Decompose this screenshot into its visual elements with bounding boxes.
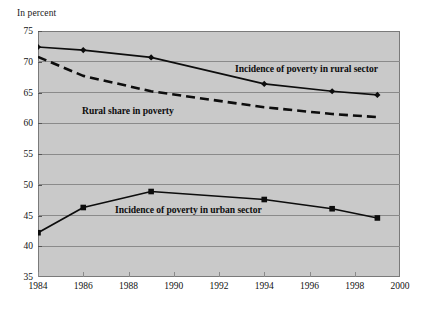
y-tick-label: 55 bbox=[24, 149, 34, 159]
data-point-marker-square bbox=[148, 189, 154, 195]
data-point-marker-diamond bbox=[148, 54, 154, 60]
y-axis-tick-labels: 354045505560657075 bbox=[0, 31, 33, 277]
series-label-rural-share: Rural share in poverty bbox=[82, 105, 174, 116]
data-point-marker-diamond bbox=[261, 81, 267, 87]
y-tick-label: 45 bbox=[24, 211, 34, 221]
data-point-marker-diamond bbox=[38, 44, 41, 50]
series-label-rural-incidence: Incidence of poverty in rural sector bbox=[235, 63, 378, 74]
y-tick-label: 75 bbox=[24, 26, 34, 36]
x-axis-tick-labels: 198419861988199019921994199619982000 bbox=[38, 281, 400, 297]
data-point-marker-square bbox=[375, 215, 381, 221]
chart-page: In percent 354045505560657075 1984198619… bbox=[0, 0, 423, 309]
y-axis-title: In percent bbox=[17, 8, 56, 18]
data-point-marker-square bbox=[261, 197, 267, 203]
data-point-marker-diamond bbox=[329, 88, 335, 94]
data-point-marker-square bbox=[329, 206, 335, 212]
data-point-marker-square bbox=[38, 230, 41, 236]
x-tick-label: 1996 bbox=[300, 281, 319, 291]
y-tick-label: 50 bbox=[24, 180, 34, 190]
x-tick-label: 2000 bbox=[391, 281, 410, 291]
y-tick-label: 40 bbox=[24, 241, 34, 251]
y-tick-label: 60 bbox=[24, 118, 34, 128]
x-tick-label: 1986 bbox=[74, 281, 93, 291]
x-tick-label: 1994 bbox=[255, 281, 274, 291]
y-tick-label: 70 bbox=[24, 57, 34, 67]
x-tick-label: 1990 bbox=[164, 281, 183, 291]
y-tick-label: 65 bbox=[24, 88, 34, 98]
x-tick-label: 1988 bbox=[119, 281, 138, 291]
data-point-marker-square bbox=[80, 205, 86, 211]
series-label-urban-incidence: Incidence of poverty in urban sector bbox=[115, 204, 262, 215]
x-tick-label: 1992 bbox=[210, 281, 229, 291]
x-tick-label: 1998 bbox=[345, 281, 364, 291]
data-point-marker-diamond bbox=[80, 47, 86, 53]
x-tick-label: 1984 bbox=[29, 281, 48, 291]
